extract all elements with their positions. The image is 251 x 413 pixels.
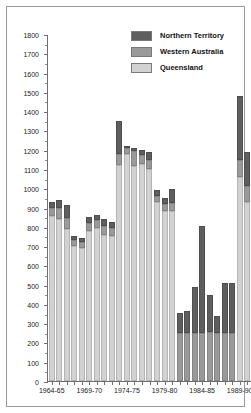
- y-axis-minor-tick: [45, 45, 47, 46]
- x-axis-tick-label: 1969-70: [76, 387, 102, 395]
- bar-segment-western-australia: [49, 208, 55, 217]
- bar-segment-queensland: [162, 211, 168, 381]
- y-axis-minor-tick: [45, 257, 47, 258]
- bar-stack: [192, 287, 198, 381]
- bar-segment-western-australia: [192, 333, 198, 381]
- bar-segment-western-australia: [86, 223, 92, 231]
- bar-segment-western-australia: [139, 155, 145, 164]
- y-axis-tick-label: 1000: [9, 186, 39, 193]
- bar-stack: [184, 311, 190, 381]
- y-axis-minor-tick: [45, 295, 47, 296]
- bar-segment-queensland: [124, 154, 130, 381]
- y-axis-minor-tick: [45, 237, 47, 238]
- bar-segment-western-australia: [207, 332, 213, 381]
- bar-segment-queensland: [237, 177, 243, 381]
- bar-segment-northern-territory: [177, 313, 183, 333]
- y-axis-minor-tick: [45, 141, 47, 142]
- y-axis-minor-tick: [45, 122, 47, 123]
- y-axis-tick-label: 1100: [9, 166, 39, 173]
- y-axis-minor-tick: [45, 334, 47, 335]
- y-axis-tick-label: 200: [9, 340, 39, 347]
- bar-segment-northern-territory: [214, 316, 220, 332]
- y-axis-minor-tick: [45, 64, 47, 65]
- bar-stack: [162, 198, 168, 381]
- x-axis-tick-label: 1979-80: [152, 387, 178, 395]
- bar-stack: [94, 215, 100, 381]
- bar-segment-queensland: [131, 166, 137, 381]
- bar-segment-queensland: [139, 164, 145, 381]
- y-axis-tick-label: 1400: [9, 109, 39, 116]
- bar-segment-western-australia: [199, 333, 205, 381]
- bar-stack: [109, 222, 115, 381]
- bar-segment-northern-territory: [192, 287, 198, 333]
- y-axis-minor-tick: [45, 218, 47, 219]
- bar-segment-queensland: [94, 228, 100, 381]
- y-axis-tick-label: 100: [9, 359, 39, 366]
- bar-stack: [237, 96, 243, 381]
- bar-segment-northern-territory: [184, 311, 190, 333]
- bar-segment-queensland: [86, 231, 92, 381]
- bar-stack: [199, 226, 205, 381]
- bar-stack: [146, 152, 152, 381]
- bar-segment-queensland: [109, 236, 115, 381]
- bar-segment-northern-territory: [244, 152, 250, 187]
- y-axis-tick-label: 700: [9, 244, 39, 251]
- bar-segment-western-australia: [214, 333, 220, 381]
- bar-segment-queensland: [169, 211, 175, 381]
- bar-segment-northern-territory: [64, 205, 70, 218]
- bar-segment-western-australia: [101, 226, 107, 235]
- y-axis-tick-label: 500: [9, 282, 39, 289]
- bar-segment-western-australia: [64, 218, 70, 229]
- figure-border: Northern TerritoryWestern AustraliaQueen…: [6, 6, 245, 407]
- bar-segment-western-australia: [244, 186, 250, 201]
- y-axis-tick-label: 900: [9, 205, 39, 212]
- bar-segment-western-australia: [131, 151, 137, 166]
- bar-stack: [229, 283, 235, 381]
- bar-segment-western-australia: [146, 160, 152, 169]
- y-axis-tick-label: 1300: [9, 128, 39, 135]
- plot-area: 0100200300400500600700800900100011001200…: [47, 35, 251, 382]
- bar-stack: [101, 219, 107, 381]
- bar-stack: [124, 146, 130, 381]
- bar-stack: [131, 148, 137, 381]
- bar-segment-western-australia: [169, 203, 175, 212]
- y-axis-minor-tick: [45, 160, 47, 161]
- bar-segment-western-australia: [116, 154, 122, 166]
- bar-segment-queensland: [116, 165, 122, 381]
- bar-stack: [86, 217, 92, 381]
- bar-segment-queensland: [244, 202, 250, 381]
- y-axis-tick-label: 300: [9, 321, 39, 328]
- y-axis-tick-label: 0: [9, 379, 39, 386]
- bar-segment-queensland: [101, 235, 107, 382]
- bar-segment-northern-territory: [229, 283, 235, 333]
- bar-stack: [177, 313, 183, 381]
- bar-segment-northern-territory: [222, 283, 228, 333]
- y-axis-tick-label: 1700: [9, 51, 39, 58]
- y-axis-minor-tick: [45, 102, 47, 103]
- bar-stack: [154, 190, 160, 381]
- bar-stack: [139, 150, 145, 381]
- x-axis-tick-label: 1989-90: [227, 387, 251, 395]
- bar-stack: [207, 295, 213, 381]
- bar-segment-queensland: [71, 246, 77, 381]
- bar-stack: [116, 121, 122, 381]
- bar-segment-western-australia: [237, 160, 243, 176]
- bar-segment-western-australia: [229, 333, 235, 381]
- y-axis-minor-tick: [45, 276, 47, 277]
- bar-stack: [214, 316, 220, 381]
- y-axis-minor-tick: [45, 372, 47, 373]
- bar-segment-queensland: [49, 216, 55, 381]
- bar-segment-northern-territory: [116, 121, 122, 154]
- y-axis-minor-tick: [45, 315, 47, 316]
- bar-segment-northern-territory: [146, 152, 152, 161]
- bar-segment-western-australia: [109, 228, 115, 237]
- bar-stack: [79, 238, 85, 381]
- bar-stack: [244, 152, 250, 381]
- y-axis-tick-label: 1500: [9, 89, 39, 96]
- bar-segment-queensland: [146, 169, 152, 381]
- x-axis-tick-label: 1964-65: [39, 387, 65, 395]
- bar-segment-queensland: [56, 219, 62, 381]
- bar-segment-northern-territory: [199, 226, 205, 333]
- y-axis-tick-label: 800: [9, 224, 39, 231]
- bar-series-layer: [48, 35, 251, 381]
